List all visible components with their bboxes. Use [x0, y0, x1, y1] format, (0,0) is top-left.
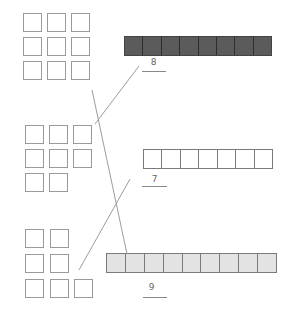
- bar-cell: [199, 37, 217, 55]
- unit-square: [23, 61, 42, 80]
- unit-square: [47, 37, 66, 56]
- unit-square: [23, 37, 42, 56]
- unit-square: [73, 125, 92, 144]
- answer-underline-bar-2: [142, 186, 167, 187]
- unit-square: [47, 61, 66, 80]
- unit-square: [74, 279, 93, 298]
- unit-square: [49, 173, 68, 192]
- bar-cell: [126, 254, 145, 272]
- unit-square: [49, 149, 68, 168]
- bar-cell: [144, 150, 162, 168]
- answer-underline-bar-1: [142, 71, 166, 72]
- bar-cell: [162, 37, 180, 55]
- unit-square: [50, 254, 69, 273]
- bar-cell: [220, 254, 239, 272]
- bar-cell: [255, 150, 272, 168]
- bar-cell: [107, 254, 126, 272]
- bar-cell: [143, 37, 161, 55]
- bar-cell: [254, 37, 271, 55]
- bar-white-7-cells: [143, 149, 273, 169]
- unit-square: [25, 279, 44, 298]
- bar-light-9-cells: [106, 253, 277, 273]
- unit-square: [25, 125, 44, 144]
- bar-cell: [258, 254, 276, 272]
- bar-cell: [218, 150, 236, 168]
- bar-cell: [201, 254, 220, 272]
- match-line-group-9-to-bar-3: [92, 90, 127, 254]
- bar-cell: [235, 37, 253, 55]
- bar-cell: [239, 254, 258, 272]
- bar-cell: [199, 150, 217, 168]
- bar-cell: [217, 37, 235, 55]
- unit-square: [25, 173, 44, 192]
- answer-label-bar-2: 7: [142, 174, 167, 184]
- bar-cell: [180, 37, 198, 55]
- unit-square: [71, 37, 90, 56]
- matching-worksheet: 8 7 9: [0, 0, 293, 322]
- unit-square: [71, 61, 90, 80]
- unit-square: [71, 13, 90, 32]
- unit-square: [73, 149, 92, 168]
- match-line-group-8-to-bar-1: [95, 66, 139, 124]
- bar-cell: [236, 150, 254, 168]
- unit-square: [25, 254, 44, 273]
- bar-cell: [162, 150, 180, 168]
- unit-square: [50, 279, 69, 298]
- bar-cell: [145, 254, 164, 272]
- answer-underline-bar-3: [143, 297, 167, 298]
- answer-label-bar-3: 9: [139, 282, 164, 292]
- unit-square: [50, 229, 69, 248]
- unit-square: [25, 149, 44, 168]
- unit-square: [49, 125, 68, 144]
- unit-square: [23, 13, 42, 32]
- bar-cell: [181, 150, 199, 168]
- bar-dark-8-cells: [124, 36, 272, 56]
- bar-cell: [183, 254, 202, 272]
- answer-label-bar-1: 8: [141, 57, 166, 67]
- unit-square: [25, 229, 44, 248]
- bar-cell: [164, 254, 183, 272]
- bar-cell: [125, 37, 143, 55]
- unit-square: [47, 13, 66, 32]
